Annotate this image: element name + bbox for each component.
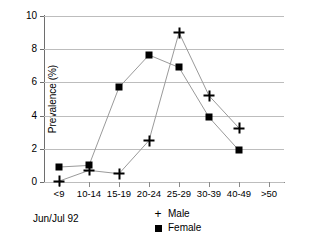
gridline bbox=[44, 182, 284, 183]
x-axis-tick-label: 25-29 bbox=[167, 189, 191, 199]
x-axis-tick bbox=[119, 182, 120, 187]
legend-label-male: Male bbox=[168, 207, 190, 221]
plot-area: Prevalence (%) 0246810 <910-1415-1920-24… bbox=[44, 16, 284, 182]
x-axis-tick-label: 10-14 bbox=[77, 189, 101, 199]
y-axis-tick-label: 8 bbox=[31, 44, 37, 54]
y-axis-tick-label: 0 bbox=[31, 177, 37, 187]
x-axis-tick-label: <9 bbox=[54, 189, 65, 199]
y-axis-tick bbox=[40, 182, 44, 183]
legend-item-female: Female bbox=[153, 221, 201, 235]
data-point-female-10-14 bbox=[86, 162, 93, 169]
data-point-female-20-24 bbox=[146, 52, 153, 59]
data-point-male-25-29 bbox=[174, 27, 185, 38]
series-lines bbox=[44, 16, 284, 182]
x-axis-tick bbox=[209, 182, 210, 187]
data-point-male-20-24 bbox=[144, 135, 155, 146]
x-axis-tick bbox=[179, 182, 180, 187]
x-axis-tick-label: 20-24 bbox=[137, 189, 161, 199]
x-axis-tick bbox=[269, 182, 270, 187]
data-point-female-30-39 bbox=[206, 114, 213, 121]
data-point-male-15-19 bbox=[114, 168, 125, 179]
x-axis-tick bbox=[239, 182, 240, 187]
y-axis-tick-label: 4 bbox=[31, 111, 37, 121]
x-axis-tick-label: 30-39 bbox=[197, 189, 221, 199]
x-axis-tick-label: >50 bbox=[261, 189, 277, 199]
data-point-female-<9 bbox=[56, 164, 63, 171]
y-axis-tick-label: 2 bbox=[31, 144, 37, 154]
chart-caption: Jun/Jul 92 bbox=[33, 213, 79, 224]
x-axis-tick bbox=[89, 182, 90, 187]
legend-label-female: Female bbox=[168, 221, 201, 235]
y-axis-tick-label: 6 bbox=[31, 77, 37, 87]
prevalence-by-age-chart: Prevalence (%) 0246810 <910-1415-1920-24… bbox=[0, 0, 309, 245]
x-axis-tick bbox=[149, 182, 150, 187]
data-point-female-15-19 bbox=[116, 84, 123, 91]
chart-legend: + Male Female bbox=[153, 207, 201, 235]
data-point-male-<9 bbox=[54, 176, 65, 187]
y-axis-tick-label: 10 bbox=[26, 11, 37, 21]
series-line-female bbox=[59, 55, 239, 167]
legend-item-male: + Male bbox=[153, 207, 201, 221]
plus-marker-icon: + bbox=[153, 209, 163, 219]
x-axis-tick-label: 40-49 bbox=[227, 189, 251, 199]
data-point-female-25-29 bbox=[176, 64, 183, 71]
data-point-female-40-49 bbox=[236, 147, 243, 154]
data-point-male-30-39 bbox=[204, 90, 215, 101]
data-point-male-40-49 bbox=[234, 123, 245, 134]
x-axis-tick-label: 15-19 bbox=[107, 189, 131, 199]
square-marker-icon bbox=[153, 223, 163, 233]
